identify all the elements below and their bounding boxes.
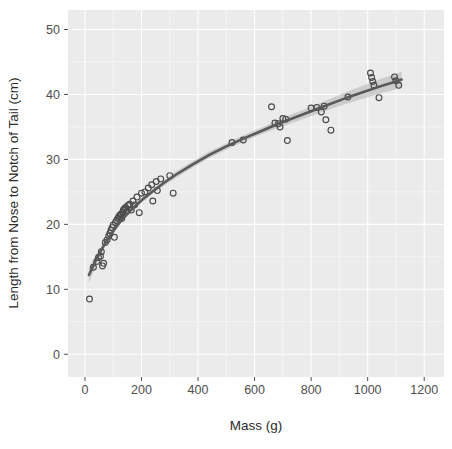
y-tick-label: 10: [46, 283, 60, 297]
y-tick-label: 0: [53, 348, 60, 362]
scatter-plot: 020040060080010001200 01020304050 Mass (…: [0, 0, 452, 449]
x-axis-title: Mass (g): [230, 418, 283, 433]
y-tick-label: 40: [46, 88, 60, 102]
x-tick-label: 0: [81, 383, 88, 397]
x-tick-label: 1200: [410, 383, 438, 397]
y-tick-label: 50: [46, 23, 60, 37]
x-tick-label: 1000: [354, 383, 382, 397]
y-tick-label: 20: [46, 218, 60, 232]
chart-root: 020040060080010001200 01020304050 Mass (…: [0, 0, 452, 449]
y-axis-title: Length from Nose to Notch of Tail (cm): [6, 78, 21, 309]
y-tick-label: 30: [46, 153, 60, 167]
x-tick-label: 800: [301, 383, 322, 397]
x-tick-label: 200: [131, 383, 152, 397]
x-tick-label: 600: [244, 383, 265, 397]
x-tick-label: 400: [188, 383, 209, 397]
